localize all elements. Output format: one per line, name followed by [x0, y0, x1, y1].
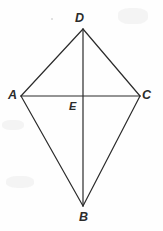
segment-AD	[21, 29, 83, 96]
segment-DC	[83, 29, 140, 96]
geometry-figure-canvas: D A C B E	[0, 0, 163, 231]
vertex-label-a: A	[8, 89, 17, 102]
vertex-label-b: B	[79, 211, 88, 224]
vertex-label-e: E	[69, 101, 76, 112]
vertex-label-c: C	[142, 89, 151, 102]
kite-diagram-svg	[0, 0, 163, 231]
scan-speck-top	[51, 18, 53, 20]
segment-group	[21, 29, 140, 206]
segment-BA	[21, 96, 83, 206]
segment-CB	[83, 96, 140, 206]
vertex-label-d: D	[75, 12, 84, 25]
